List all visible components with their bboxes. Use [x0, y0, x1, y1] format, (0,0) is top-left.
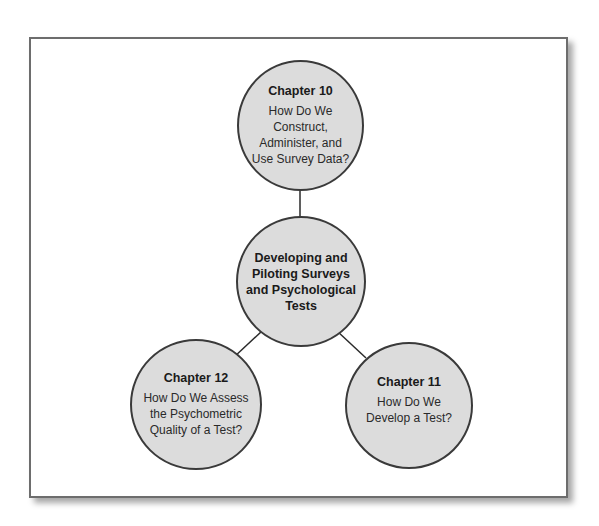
chapter-question: How Do We Develop a Test? [359, 394, 459, 426]
chapter-label: Chapter 10 [268, 84, 333, 98]
chapter-question: How Do We Construct, Administer, and Use… [251, 103, 351, 167]
chapter-question: How Do We Assess the Psychometric Qualit… [136, 390, 256, 438]
chapter-label: Chapter 12 [164, 371, 229, 385]
page-header-cutoff [28, 0, 228, 4]
central-topic-title: Developing and Piloting Surveys and Psyc… [241, 250, 361, 314]
node-chapter-12: Chapter 12 How Do We Assess the Psychome… [130, 339, 262, 470]
node-chapter-10: Chapter 10 How Do We Construct, Administ… [237, 60, 364, 191]
node-central-topic: Developing and Piloting Surveys and Psyc… [236, 216, 366, 347]
chapter-label: Chapter 11 [377, 375, 441, 389]
node-chapter-11: Chapter 11 How Do We Develop a Test? [345, 342, 473, 469]
